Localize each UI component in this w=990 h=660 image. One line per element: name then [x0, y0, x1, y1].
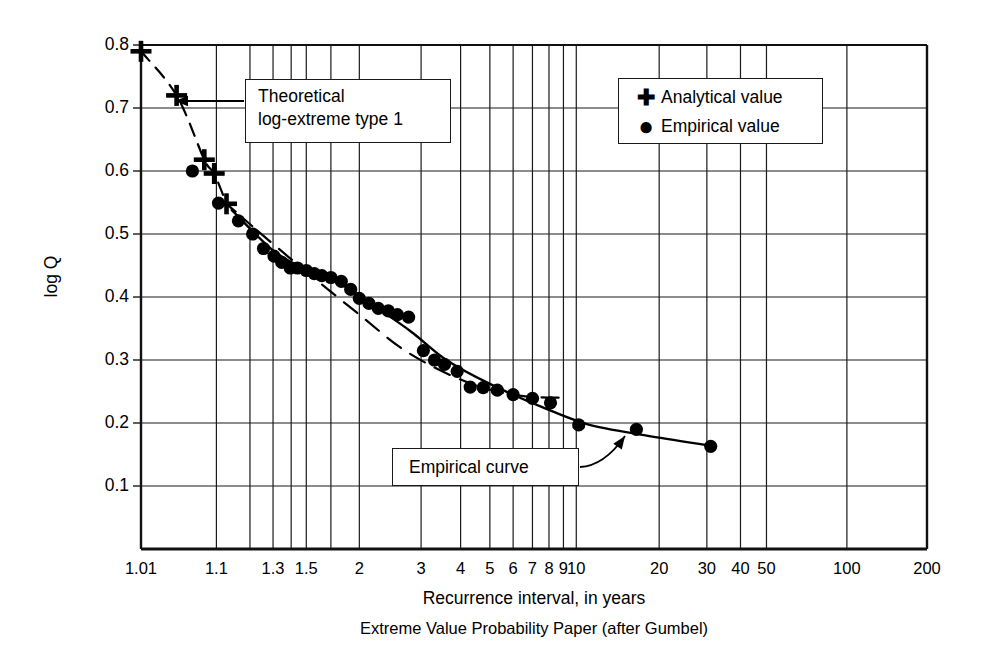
- empirical-data-point: [544, 396, 557, 409]
- empirical-data-point: [391, 308, 404, 321]
- x-tick-label: 200: [907, 559, 947, 578]
- x-axis-title: Recurrence interval, in years: [141, 588, 927, 609]
- theoretical-curve-label: Theoretical log-extreme type 1: [245, 79, 451, 143]
- chart-legend: ✚ Analytical value ● Empirical value: [618, 78, 823, 144]
- empirical-data-point: [186, 164, 199, 177]
- empirical-data-point: [704, 440, 717, 453]
- y-axis-title: log Q: [41, 222, 62, 332]
- empirical-data-point: [630, 423, 643, 436]
- empirical-data-point: [506, 388, 519, 401]
- chart-figure: 0.80.70.60.50.40.30.20.1 1.011.11.31.523…: [0, 0, 990, 660]
- y-tick-label: 0.5: [83, 223, 129, 244]
- empirical-data-point: [464, 381, 477, 394]
- empirical-data-point: [572, 418, 585, 431]
- empirical-curve-label: Empirical curve: [392, 448, 579, 486]
- x-tick-label: 1.5: [286, 559, 326, 578]
- figure-caption: Extreme Value Probability Paper (after G…: [141, 619, 927, 638]
- empirical-data-point: [451, 365, 464, 378]
- y-tick-label: 0.2: [83, 412, 129, 433]
- empirical-data-point: [402, 311, 415, 324]
- empirical-data-point: [232, 214, 245, 227]
- y-tick-label: 0.3: [83, 349, 129, 370]
- annotation-arrows: [175, 96, 625, 467]
- empirical-data-point: [438, 358, 451, 371]
- x-tick-label: 10: [556, 559, 596, 578]
- y-tick-label: 0.6: [83, 160, 129, 181]
- empirical-data-point: [477, 381, 490, 394]
- empirical-data-point: [417, 344, 430, 357]
- legend-item-analytical: ✚ Analytical value: [619, 83, 822, 112]
- x-tick-label: 2: [339, 559, 379, 578]
- circle-marker-icon: ●: [633, 119, 659, 135]
- x-tick-label: 1.1: [196, 559, 236, 578]
- empirical-curve: [232, 210, 711, 446]
- empirical-data-point: [491, 384, 504, 397]
- x-tick-label: 3: [401, 559, 441, 578]
- legend-item-empirical: ● Empirical value: [619, 112, 822, 141]
- y-tick-label: 0.1: [83, 475, 129, 496]
- y-tick-label: 0.8: [83, 34, 129, 55]
- x-tick-label: 20: [639, 559, 679, 578]
- plus-marker-icon: ✚: [633, 87, 659, 109]
- y-tick-label: 0.7: [83, 97, 129, 118]
- legend-label-analytical: Analytical value: [659, 87, 783, 108]
- empirical-data-point: [526, 392, 539, 405]
- legend-label-empirical: Empirical value: [659, 116, 780, 137]
- y-tick-label: 0.4: [83, 286, 129, 307]
- x-tick-label: 1.01: [121, 559, 161, 578]
- x-tick-label: 100: [827, 559, 867, 578]
- empirical-data-point: [246, 227, 259, 240]
- x-tick-label: 50: [746, 559, 786, 578]
